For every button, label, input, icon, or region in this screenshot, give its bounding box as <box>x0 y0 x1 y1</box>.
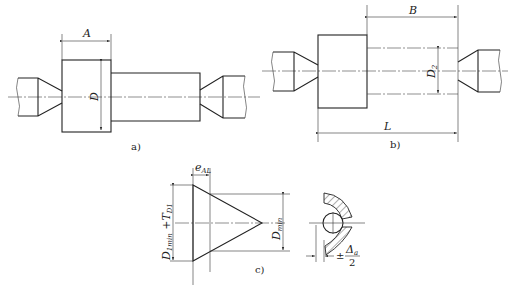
label-D1min-TD1: D1min +TD1 <box>160 203 174 261</box>
label-D: D <box>88 92 101 102</box>
panel-c: eAL D1min +TD1 Dmin c) <box>160 161 290 285</box>
caption-b: b) <box>390 139 400 150</box>
label-Dmin: Dmin <box>270 217 284 241</box>
label-B: B <box>408 4 417 17</box>
panel-a: A D a) <box>8 27 260 152</box>
label-two: 2 <box>349 257 355 268</box>
label-e-AL: eAL <box>195 161 212 175</box>
ball-detail: ± Δa 2 <box>306 193 365 268</box>
label-tolerance-sign: ± <box>336 250 344 261</box>
label-A: A <box>82 27 91 40</box>
panel-b: B D2 L b) <box>262 4 508 150</box>
technical-drawing: A D a) B D2 L b) <box>0 0 517 298</box>
label-delta-a: Δa <box>345 243 358 257</box>
label-L: L <box>383 120 391 133</box>
caption-a: a) <box>131 141 141 152</box>
caption-c: c) <box>255 264 265 275</box>
label-D2: D2 <box>425 64 439 79</box>
